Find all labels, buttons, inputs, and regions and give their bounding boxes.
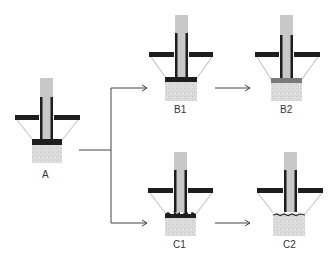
taper-line-right xyxy=(196,193,212,214)
flange-right xyxy=(298,188,323,193)
stage-b1: B1 xyxy=(149,15,213,115)
label-a: A xyxy=(42,169,49,180)
block xyxy=(271,83,302,101)
label-c1: C1 xyxy=(173,239,186,250)
stem-wall-left xyxy=(284,170,287,212)
stem-wall-right xyxy=(295,170,298,212)
void xyxy=(180,212,183,214)
stem-wall-left xyxy=(280,35,283,79)
flange-left xyxy=(257,188,283,193)
stage-b2: B2 xyxy=(255,15,320,115)
flange-left xyxy=(15,115,39,120)
stem-wall-left xyxy=(175,33,178,78)
void xyxy=(171,212,174,214)
taper-line-right xyxy=(197,57,212,78)
stage-c2: C2 xyxy=(257,152,323,250)
flange-left xyxy=(149,52,174,57)
diagram: A B1 B2 xyxy=(0,0,333,258)
taper-line-right xyxy=(305,193,322,214)
stem-wall-right xyxy=(51,97,54,140)
label-b1: B1 xyxy=(174,104,187,115)
block xyxy=(32,145,62,163)
taper-line-left xyxy=(150,193,166,214)
stem-wall-left xyxy=(40,97,43,140)
void xyxy=(188,212,191,214)
flange-right xyxy=(294,52,320,57)
flange-left xyxy=(255,52,279,57)
stage-a: A xyxy=(15,78,80,180)
stage-c1: C1 xyxy=(148,152,213,250)
gray-cap xyxy=(271,78,302,83)
stem-wall-right xyxy=(291,35,294,79)
taper-line-left xyxy=(257,57,271,79)
flange-right xyxy=(54,115,80,120)
taper-line-left xyxy=(17,120,33,140)
taper-line-right xyxy=(62,120,78,140)
stem-wall-left xyxy=(174,170,177,212)
taper-line-left xyxy=(258,193,274,214)
flange-right xyxy=(189,52,213,57)
block xyxy=(273,215,305,236)
label-c2: C2 xyxy=(283,239,296,250)
flange-right xyxy=(188,188,213,193)
dark-cap xyxy=(32,139,62,145)
dark-cap xyxy=(165,77,197,82)
stem-wall-right xyxy=(186,33,189,78)
label-b2: B2 xyxy=(280,104,293,115)
taper-line-right xyxy=(302,57,318,79)
flange-left xyxy=(148,188,173,193)
taper-line-left xyxy=(151,57,166,78)
block xyxy=(165,82,197,101)
branch-connector xyxy=(79,88,250,223)
stem-wall-right xyxy=(185,170,188,212)
